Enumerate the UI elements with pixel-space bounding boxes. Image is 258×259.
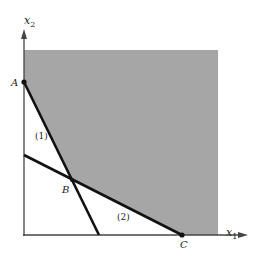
- vertex-c-point: [179, 232, 184, 237]
- vertex-b-point: [70, 178, 74, 182]
- x1-axis-label: x1: [226, 226, 237, 241]
- vertex-a-label: A: [10, 77, 18, 88]
- x2-axis-label: x2: [24, 14, 35, 29]
- vertex-b-label: B: [61, 184, 69, 195]
- constraint-label-1: (1): [35, 131, 48, 141]
- feasible-region-diagram: x2 x1 A B C (1) (2): [0, 0, 258, 259]
- constraint-label-2: (2): [117, 212, 130, 222]
- vertex-a-point: [21, 79, 26, 84]
- x2-axis-arrow-icon: [21, 29, 27, 39]
- vertex-c-label: C: [180, 239, 188, 250]
- x1-axis-arrow-icon: [238, 232, 248, 238]
